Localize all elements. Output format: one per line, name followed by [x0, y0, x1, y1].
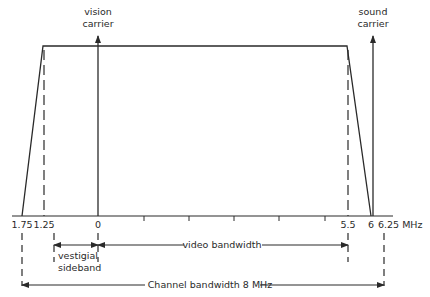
axis-label-0: 0	[95, 219, 101, 230]
axis-label-1.25: 1.25	[33, 219, 54, 230]
channel-bandwidth-label: Channel bandwidth 8 MHz	[148, 279, 273, 290]
vestigial-label-1: vestigial	[58, 250, 98, 261]
video-bandwidth-label: video bandwidth	[182, 239, 261, 250]
axis-label-6: 6	[368, 219, 374, 230]
axis-label-5.5: 5.5	[340, 219, 355, 230]
vision-carrier-label-2: carrier	[82, 18, 113, 29]
axis-label-1.75: 1.75	[11, 219, 32, 230]
sound-carrier-label-1: sound	[359, 6, 388, 17]
vestigial-label-2: sideband	[58, 262, 101, 273]
axis-ticks	[144, 216, 325, 221]
spectrum-envelope	[22, 46, 371, 216]
channel-spectrum-diagram: vision carrier sound carrier 1.75 1.25 0…	[0, 0, 430, 297]
vision-carrier-label-1: vision	[84, 6, 112, 17]
axis-label-6.25: 6.25 MHz	[378, 219, 423, 230]
sound-carrier-label-2: carrier	[357, 18, 388, 29]
